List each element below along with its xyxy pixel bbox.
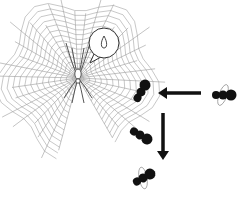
insect-flying-right-icon [212,83,237,106]
arrow-head [157,151,169,160]
arrows [157,87,201,160]
insect-caught-middle-icon [128,125,155,147]
spider-head [76,79,80,83]
insects [128,78,237,194]
web-spoke [13,78,78,127]
speech-bubble [89,28,119,63]
spider-web-illustration [0,0,244,200]
illustration [0,0,244,200]
spider-body [75,69,81,79]
insect-caught-lower-icon [128,161,161,194]
arrow-down-icon [157,113,169,160]
insect-abdomen [226,90,237,101]
web-spoke [12,78,78,87]
arrow-left-icon [158,87,201,99]
